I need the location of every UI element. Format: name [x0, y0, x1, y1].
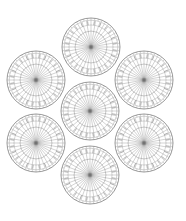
- strand-circle-upper-right: [115, 51, 173, 109]
- strand-circle-center: [61, 82, 119, 140]
- strand-circle-top: [62, 18, 120, 76]
- strand-diagram: [0, 0, 186, 221]
- strand-circle-lower-right: [115, 114, 173, 172]
- strand-circle-lower-left: [7, 114, 65, 172]
- strand-circle-upper-left: [7, 51, 65, 109]
- strand-circle-bottom: [61, 146, 119, 204]
